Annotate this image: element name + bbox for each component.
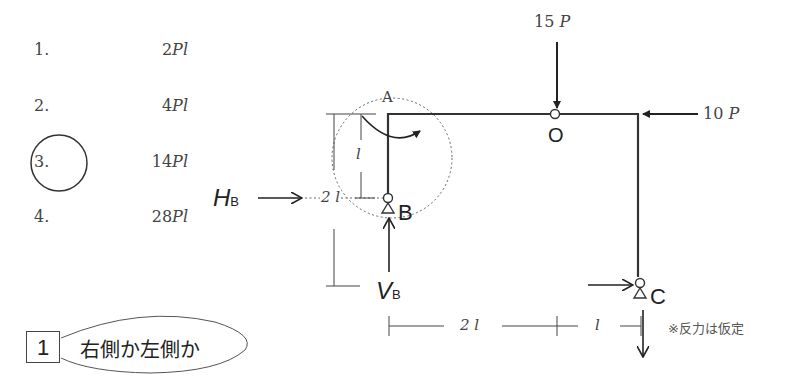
tag-text: 右側か左側か (80, 334, 200, 363)
reaction-note: ※反力は仮定 (668, 318, 744, 337)
frame-members (388, 114, 638, 277)
load-10p-label: 10 P (703, 104, 739, 123)
node-o-label: O (548, 124, 564, 147)
tag-number: 1 (26, 331, 60, 363)
support-b (382, 194, 394, 214)
load-15p-label: 15 P (534, 12, 570, 31)
dim-width-2l: 2 l (460, 316, 479, 334)
dim-height-2l: 2 l (320, 188, 341, 206)
dim-width-l: l (595, 316, 600, 334)
node-c-label: C (650, 284, 666, 310)
dim-height-l: l (356, 145, 361, 163)
hinge-o (551, 110, 560, 119)
moment-arrow (362, 116, 420, 138)
reaction-hb-label: HB (213, 184, 239, 212)
horizontal-dimensions (389, 316, 641, 336)
reaction-vb-label: VB (376, 277, 401, 305)
support-c (634, 279, 646, 299)
node-a-label: A (382, 88, 393, 106)
node-b-label: B (398, 200, 413, 226)
answer-circle (31, 135, 87, 191)
